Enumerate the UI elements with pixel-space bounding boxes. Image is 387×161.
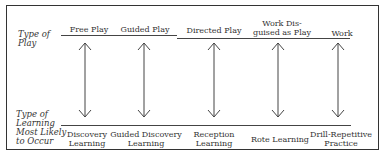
double-arrow-icon: [138, 43, 150, 117]
double-arrows: [0, 0, 387, 161]
double-arrow-icon: [332, 43, 344, 117]
double-arrow-icon: [272, 43, 284, 117]
double-arrow-icon: [79, 43, 91, 117]
double-arrow-icon: [208, 43, 220, 117]
